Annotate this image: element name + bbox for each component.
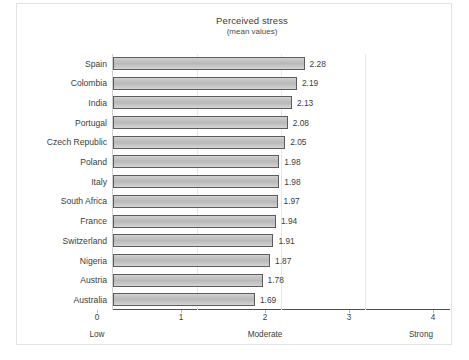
bar-row[interactable]: Spain2.28 (113, 54, 449, 73)
category-label: India (88, 98, 107, 108)
plot-area: Spain2.28Colombia2.19India2.13Portugal2.… (113, 54, 449, 310)
bar-value-label: 2.19 (302, 78, 318, 88)
bar[interactable] (113, 116, 288, 129)
bar-row[interactable]: Nigeria1.87 (113, 251, 449, 270)
category-label: Nigeria (80, 256, 107, 266)
chart-frame: Perceived stress (mean values) Spain2.28… (16, 3, 452, 345)
bar-row[interactable]: Italy1.98 (113, 172, 449, 191)
x-axis-zone-label: Strong (409, 330, 433, 339)
bar-value-label: 2.08 (293, 118, 309, 128)
bar-row[interactable]: Czech Republic2.05 (113, 133, 449, 152)
bar[interactable] (113, 57, 305, 70)
bar-row[interactable]: Poland1.98 (113, 152, 449, 171)
category-label: South Africa (61, 196, 107, 206)
bar-row[interactable]: Australia1.69 (113, 290, 449, 309)
bar[interactable] (113, 96, 292, 109)
bar-value-label: 1.98 (284, 177, 300, 187)
bar-row[interactable]: France1.94 (113, 212, 449, 231)
category-label: Poland (80, 157, 107, 167)
bar-value-label: 2.05 (290, 137, 306, 147)
x-axis-tick-label: 1 (179, 313, 184, 322)
bar-value-label: 1.69 (260, 295, 276, 305)
bar[interactable] (113, 215, 276, 228)
bar-value-label: 2.13 (297, 98, 313, 108)
bar[interactable] (113, 136, 285, 149)
chart-subtitle: (mean values) (97, 28, 407, 36)
bar[interactable] (113, 254, 270, 267)
bar-value-label: 1.87 (275, 256, 291, 266)
bar[interactable] (113, 293, 255, 306)
bar[interactable] (113, 77, 297, 90)
bar-row[interactable]: South Africa1.97 (113, 192, 449, 211)
bar[interactable] (113, 234, 273, 247)
bar-row[interactable]: India2.13 (113, 93, 449, 112)
bar-row[interactable]: Colombia2.19 (113, 74, 449, 93)
bar[interactable] (113, 195, 278, 208)
category-label: Switzerland (63, 236, 107, 246)
x-axis-zone-label: Low (89, 330, 104, 339)
bar-value-label: 1.91 (278, 236, 294, 246)
x-axis-tick-label: 2 (263, 313, 268, 322)
category-label: Portugal (75, 118, 107, 128)
x-axis-zone-label: Moderate (248, 330, 283, 339)
bar-row[interactable]: Portugal2.08 (113, 113, 449, 132)
x-axis-tick-label: 4 (431, 313, 436, 322)
category-label: Spain (85, 59, 107, 69)
bar[interactable] (113, 274, 263, 287)
bar-value-label: 1.78 (268, 275, 284, 285)
bar-value-label: 1.94 (281, 216, 297, 226)
chart-title-block: Perceived stress (mean values) (97, 16, 407, 36)
bar[interactable] (113, 155, 279, 168)
category-label: Italy (91, 177, 107, 187)
bar-row[interactable]: Switzerland1.91 (113, 231, 449, 250)
bar-row[interactable]: Austria1.78 (113, 271, 449, 290)
page-title: Perceived stress (97, 16, 407, 26)
category-label: Czech Republic (47, 137, 107, 147)
x-axis-tick-label: 3 (347, 313, 352, 322)
category-label: Australia (74, 295, 107, 305)
category-label: France (80, 216, 107, 226)
x-axis-tick-label: 0 (95, 313, 100, 322)
bar-value-label: 1.97 (283, 196, 299, 206)
category-label: Colombia (71, 78, 107, 88)
category-label: Austria (80, 275, 107, 285)
bar-value-label: 2.28 (310, 59, 326, 69)
bar[interactable] (113, 175, 279, 188)
bar-value-label: 1.98 (284, 157, 300, 167)
